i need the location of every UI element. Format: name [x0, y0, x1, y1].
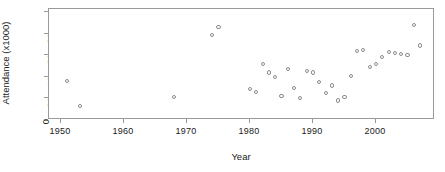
x-tick-label: 1990	[302, 126, 323, 136]
x-tick-label: 1970	[176, 126, 197, 136]
data-point	[412, 23, 416, 27]
data-point	[405, 53, 409, 57]
data-point	[368, 65, 372, 69]
y-axis-label: Attendance (x1000)	[0, 22, 11, 105]
data-point	[317, 80, 321, 84]
data-point	[279, 94, 283, 98]
x-tick-mark	[186, 119, 187, 123]
data-point	[298, 96, 302, 100]
x-tick-mark	[123, 119, 124, 123]
plot-area	[48, 8, 434, 119]
data-point	[261, 62, 265, 66]
data-point	[65, 79, 69, 83]
data-point	[273, 75, 277, 79]
data-point	[399, 52, 403, 56]
data-point	[286, 67, 290, 71]
data-point	[349, 74, 353, 78]
x-tick-mark	[60, 119, 61, 123]
data-point	[172, 95, 176, 99]
x-tick-label: 2000	[365, 126, 386, 136]
data-point	[418, 43, 422, 47]
data-point	[336, 98, 340, 102]
data-point	[355, 49, 359, 53]
data-point	[311, 70, 315, 74]
scatter-plot-figure: Attendance (x1000) 020406080100 19501960…	[0, 0, 445, 172]
data-point	[393, 51, 397, 55]
data-point	[380, 55, 384, 59]
x-tick-mark	[249, 119, 250, 123]
data-point	[324, 91, 328, 95]
data-point	[387, 50, 391, 54]
data-point	[330, 83, 334, 87]
data-point	[248, 87, 252, 91]
data-point	[254, 90, 258, 94]
data-point	[216, 25, 220, 29]
y-tick-label: 0	[41, 119, 51, 124]
x-axis-label: Year	[231, 151, 250, 162]
data-point	[292, 86, 296, 90]
data-point	[361, 48, 365, 52]
x-tick-label: 1950	[50, 126, 71, 136]
x-tick-label: 1980	[239, 126, 260, 136]
data-point	[374, 62, 378, 66]
data-points-layer	[49, 9, 433, 118]
x-tick-label: 1960	[113, 126, 134, 136]
data-point	[267, 70, 271, 74]
data-point	[342, 95, 346, 99]
x-tick-mark	[375, 119, 376, 123]
data-point	[305, 69, 309, 73]
x-tick-mark	[312, 119, 313, 123]
data-point	[210, 33, 214, 37]
data-point	[78, 104, 82, 108]
